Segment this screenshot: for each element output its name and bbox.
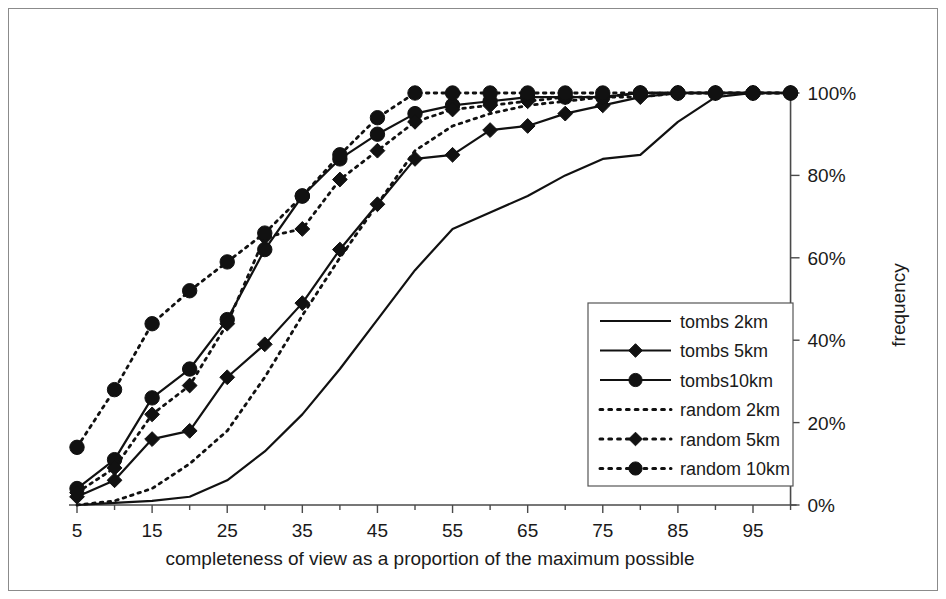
x-tick-label: 85 [667, 520, 688, 541]
y-tick-label: 40% [808, 330, 846, 351]
data-point-marker [182, 284, 196, 298]
data-point-marker [558, 106, 573, 121]
y-tick-label: 20% [808, 413, 846, 434]
x-tick-label: 75 [592, 520, 613, 541]
legend-label: random 2km [680, 400, 780, 420]
x-tick-label: 65 [517, 520, 538, 541]
y-axis-title: frequency [888, 263, 909, 347]
data-point-marker [107, 382, 121, 396]
data-point-marker [370, 143, 385, 158]
data-point-marker [333, 148, 347, 162]
data-point-marker [445, 147, 460, 162]
data-point-marker [182, 423, 197, 438]
x-tick-label: 15 [142, 520, 163, 541]
legend-marker [629, 373, 642, 386]
x-tick-label: 25 [217, 520, 238, 541]
legend-label: random 5km [680, 430, 780, 450]
data-point-marker [483, 86, 497, 100]
data-point-marker [145, 391, 159, 405]
data-point-marker [445, 86, 459, 100]
data-point-marker [295, 189, 309, 203]
chart-figure: 51525354555657585950%20%40%60%80%100% to… [0, 0, 946, 599]
x-tick-label: 55 [442, 520, 463, 541]
data-point-marker [370, 111, 384, 125]
data-point-marker [220, 255, 234, 269]
legend: tombs 2kmtombs 5kmtombs10kmrandom 2kmran… [588, 303, 793, 486]
data-point-marker [558, 86, 572, 100]
x-tick-label: 5 [72, 520, 83, 541]
data-point-marker [746, 86, 760, 100]
legend-label: tombs 2km [680, 312, 768, 332]
data-point-marker [596, 86, 610, 100]
x-tick-label: 45 [367, 520, 388, 541]
y-tick-label: 80% [808, 165, 846, 186]
data-point-marker [708, 86, 722, 100]
legend-label: tombs10km [680, 371, 773, 391]
data-point-marker [258, 226, 272, 240]
y-tick-label: 60% [808, 248, 846, 269]
x-tick-label: 95 [742, 520, 763, 541]
data-point-marker [671, 86, 685, 100]
data-point-marker [70, 440, 84, 454]
legend-marker [629, 462, 642, 475]
data-point-marker [520, 119, 535, 134]
data-point-marker [633, 86, 647, 100]
legend-label: random 10km [680, 459, 790, 479]
data-point-marker [182, 362, 196, 376]
data-point-marker [408, 86, 422, 100]
data-point-marker [145, 317, 159, 331]
chart-plot-area: 51525354555657585950%20%40%60%80%100% to… [0, 0, 946, 599]
y-tick-label: 100% [808, 83, 857, 104]
data-point-marker [370, 127, 384, 141]
data-point-marker [520, 86, 534, 100]
data-point-marker [783, 86, 797, 100]
y-tick-label: 0% [808, 495, 836, 516]
x-tick-label: 35 [292, 520, 313, 541]
x-axis-title: completeness of view as a proportion of … [165, 548, 694, 569]
data-point-marker [483, 123, 498, 138]
legend-label: tombs 5km [680, 341, 768, 361]
